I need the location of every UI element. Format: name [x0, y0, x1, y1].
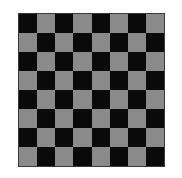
board-square — [146, 109, 164, 128]
board-square — [110, 109, 128, 128]
board-square — [128, 109, 146, 128]
board-square — [92, 71, 110, 90]
board-square — [73, 109, 91, 128]
board-square — [92, 14, 110, 33]
board-square — [146, 33, 164, 52]
board-square — [73, 71, 91, 90]
board-square — [146, 14, 164, 33]
board-square — [19, 147, 37, 166]
board-square — [19, 90, 37, 109]
board-square — [19, 52, 37, 71]
board-square — [55, 14, 73, 33]
board-square — [110, 71, 128, 90]
board-square — [37, 147, 55, 166]
board-square — [55, 33, 73, 52]
board-square — [128, 52, 146, 71]
board-square — [110, 147, 128, 166]
board-square — [128, 14, 146, 33]
board-square — [37, 109, 55, 128]
board-square — [55, 71, 73, 90]
board-square — [92, 109, 110, 128]
board-square — [92, 33, 110, 52]
board-square — [92, 90, 110, 109]
board-square — [55, 128, 73, 147]
board-square — [37, 128, 55, 147]
board-square — [128, 71, 146, 90]
board-square — [37, 52, 55, 71]
board-square — [55, 90, 73, 109]
board-square — [128, 90, 146, 109]
board-square — [19, 33, 37, 52]
board-square — [146, 71, 164, 90]
board-square — [37, 90, 55, 109]
board-square — [19, 128, 37, 147]
board-square — [146, 147, 164, 166]
board-square — [55, 52, 73, 71]
board-square — [128, 147, 146, 166]
board-square — [92, 147, 110, 166]
board-square — [128, 128, 146, 147]
board-square — [73, 147, 91, 166]
board-square — [128, 33, 146, 52]
board-square — [19, 71, 37, 90]
board-square — [110, 128, 128, 147]
board-square — [73, 14, 91, 33]
board-square — [55, 147, 73, 166]
board-square — [92, 52, 110, 71]
board-square — [73, 90, 91, 109]
board-square — [37, 71, 55, 90]
board-square — [146, 52, 164, 71]
checkerboard — [18, 13, 165, 167]
board-square — [92, 128, 110, 147]
board-square — [110, 52, 128, 71]
board-square — [110, 33, 128, 52]
board-square — [73, 52, 91, 71]
board-square — [110, 90, 128, 109]
board-square — [146, 90, 164, 109]
board-square — [19, 14, 37, 33]
board-square — [73, 33, 91, 52]
board-square — [146, 128, 164, 147]
board-square — [37, 14, 55, 33]
board-square — [110, 14, 128, 33]
board-square — [55, 109, 73, 128]
board-square — [73, 128, 91, 147]
board-square — [37, 33, 55, 52]
board-square — [19, 109, 37, 128]
